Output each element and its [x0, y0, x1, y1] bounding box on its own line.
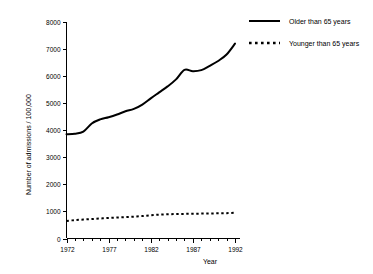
- x-tick-label: 1987: [186, 246, 201, 253]
- y-axis-title: Number of admissions / 100,000: [25, 94, 32, 195]
- y-tick-label: 2000: [46, 181, 61, 188]
- y-tick-label: 3000: [46, 154, 61, 161]
- y-tick-label: 1000: [46, 208, 61, 215]
- x-tick-label: 1992: [228, 246, 243, 253]
- y-tick-label: 8000: [46, 19, 61, 26]
- x-tick-label: 1972: [60, 246, 75, 253]
- y-tick-label: 5000: [46, 100, 61, 107]
- x-tick-label: 1982: [144, 246, 159, 253]
- x-axis-title: Year: [203, 258, 218, 265]
- legend-label-older-than-65: Older than 65 years: [289, 18, 351, 26]
- x-tick-label: 1977: [102, 246, 117, 253]
- y-tick-label: 7000: [46, 46, 61, 53]
- y-tick-label: 6000: [46, 73, 61, 80]
- chart-figure: Number of admissions / 100,000 010002000…: [0, 0, 373, 274]
- legend-label-younger-than-65: Younger than 65 years: [289, 40, 360, 48]
- y-tick-label: 4000: [46, 127, 61, 134]
- y-tick-label: 0: [57, 236, 61, 243]
- line-chart: Number of admissions / 100,000 010002000…: [0, 0, 373, 274]
